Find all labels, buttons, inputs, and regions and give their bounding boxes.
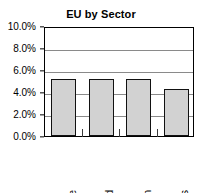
bar bbox=[126, 79, 151, 136]
bar bbox=[89, 79, 114, 136]
x-tick-mark bbox=[119, 129, 120, 137]
x-category-label-text: Textile bbox=[68, 190, 78, 193]
chart-figure: EU by Sector 0.0%2.0%4.0%6.0%8.0%10.0% T… bbox=[0, 0, 202, 193]
chart-title: EU by Sector bbox=[0, 8, 202, 20]
y-tick-label: 6.0% bbox=[13, 66, 36, 76]
y-axis: 0.0%2.0%4.0%6.0%8.0%10.0% bbox=[0, 27, 40, 137]
bar-series bbox=[45, 28, 193, 136]
y-tick-label: 10.0% bbox=[8, 22, 36, 32]
x-tick-mark bbox=[82, 129, 83, 137]
x-axis-category-labels: TextileFoodEnginStores bbox=[44, 138, 194, 193]
y-tick-label: 2.0% bbox=[13, 110, 36, 120]
x-category-label: Textile bbox=[68, 190, 78, 193]
x-axis-ticks bbox=[44, 129, 194, 137]
x-category-label: Food bbox=[105, 190, 115, 193]
x-category-label: Engin bbox=[143, 190, 153, 193]
x-tick-mark bbox=[157, 129, 158, 137]
x-category-label-text: Food bbox=[105, 190, 115, 193]
bar bbox=[51, 79, 76, 136]
y-tick-label: 0.0% bbox=[13, 132, 36, 142]
plot-area bbox=[44, 27, 194, 137]
y-tick-label: 8.0% bbox=[13, 44, 36, 54]
y-tick-label: 4.0% bbox=[13, 88, 36, 98]
x-category-label-text: Stores bbox=[180, 190, 190, 193]
x-category-label-text: Engin bbox=[143, 190, 153, 193]
x-category-label: Stores bbox=[180, 190, 190, 193]
